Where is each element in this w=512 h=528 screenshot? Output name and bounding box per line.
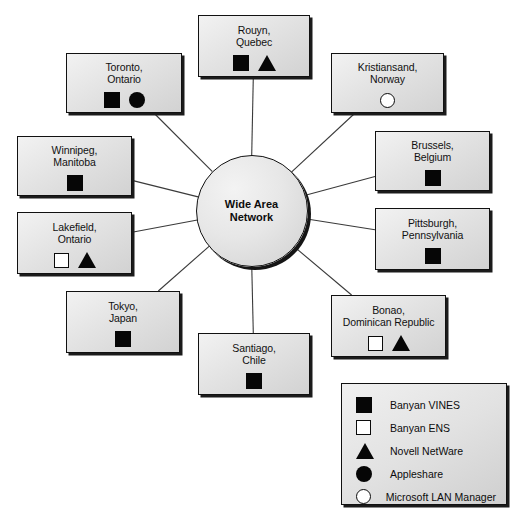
site-node-santiago[interactable]: Santiago, Chile bbox=[198, 333, 310, 395]
legend-label: Novell NetWare bbox=[390, 445, 463, 457]
legend-row: Banyan ENS bbox=[356, 416, 496, 439]
site-node-label: Tokyo, Japan bbox=[108, 300, 138, 325]
connection-line-tokyo bbox=[158, 246, 210, 291]
filled-square-icon bbox=[425, 248, 441, 264]
legend-swatch bbox=[356, 420, 380, 435]
legend-row: Appleshare bbox=[356, 462, 496, 485]
legend-swatch bbox=[356, 466, 380, 482]
connection-line-rouyn bbox=[252, 77, 254, 156]
filled-square-icon bbox=[115, 331, 131, 347]
connection-line-lakefield bbox=[132, 220, 197, 232]
legend-label: Banyan VINES bbox=[390, 399, 460, 411]
filled-square-icon bbox=[356, 397, 372, 413]
site-node-winnipeg[interactable]: Winnipeg, Manitoba bbox=[17, 136, 132, 196]
connection-line-winnipeg bbox=[132, 180, 198, 197]
site-node-label: Brussels, Belgium bbox=[411, 139, 453, 164]
site-node-label: Pittsburgh, Pennsylvania bbox=[402, 217, 463, 242]
legend-panel: Banyan VINESBanyan ENSNovell NetWareAppl… bbox=[341, 383, 507, 505]
filled-square-icon bbox=[104, 92, 120, 108]
site-node-kristiansand[interactable]: Kristiansand, Norway bbox=[331, 53, 444, 113]
site-node-label: Bonao, Dominican Republic bbox=[343, 304, 435, 329]
site-node-symbols bbox=[233, 54, 276, 73]
site-node-symbols bbox=[115, 330, 131, 349]
site-node-label: Rouyn, Quebec bbox=[236, 24, 272, 49]
legend-swatch bbox=[356, 443, 380, 459]
connection-line-brussels bbox=[303, 177, 375, 197]
open-circle-icon bbox=[380, 93, 395, 108]
connection-line-santiago bbox=[252, 264, 254, 333]
filled-square-icon bbox=[233, 55, 249, 71]
site-node-symbols bbox=[67, 174, 83, 193]
connection-line-pittsburgh bbox=[304, 219, 375, 230]
site-node-label: Toronto, Ontario bbox=[105, 61, 142, 86]
site-node-symbols bbox=[246, 372, 262, 391]
legend-swatch bbox=[356, 397, 380, 413]
site-node-symbols bbox=[368, 334, 410, 353]
filled-circle-icon bbox=[356, 466, 372, 482]
site-node-symbols bbox=[380, 91, 395, 110]
site-node-label: Lakefield, Ontario bbox=[53, 221, 97, 246]
filled-square-icon bbox=[67, 175, 83, 191]
wide-area-network-diagram: Rouyn, QuebecToronto, OntarioKristiansan… bbox=[0, 0, 512, 528]
legend-swatch bbox=[356, 489, 376, 504]
site-node-bonao[interactable]: Bonao, Dominican Republic bbox=[331, 295, 446, 357]
open-square-icon bbox=[368, 336, 383, 351]
connection-line-kristiansand bbox=[290, 113, 355, 173]
site-node-symbols bbox=[425, 247, 441, 266]
legend-label: Banyan ENS bbox=[390, 422, 450, 434]
site-node-label: Kristiansand, Norway bbox=[358, 61, 417, 86]
triangle-icon bbox=[392, 335, 410, 351]
triangle-icon bbox=[258, 55, 276, 71]
legend-label: Microsoft LAN Manager bbox=[386, 491, 496, 503]
filled-square-icon bbox=[425, 170, 441, 186]
legend-row: Banyan VINES bbox=[356, 393, 496, 416]
filled-circle-icon bbox=[129, 92, 145, 108]
site-node-toronto[interactable]: Toronto, Ontario bbox=[66, 53, 182, 113]
connection-line-toronto bbox=[154, 113, 213, 172]
filled-square-icon bbox=[246, 373, 262, 389]
site-node-symbols bbox=[54, 251, 96, 270]
open-square-icon bbox=[356, 420, 371, 435]
triangle-icon bbox=[78, 252, 96, 268]
open-circle-icon bbox=[356, 489, 371, 504]
hub-label: Wide Area Network bbox=[225, 198, 278, 225]
site-node-lakefield[interactable]: Lakefield, Ontario bbox=[17, 212, 132, 274]
site-node-label: Winnipeg, Manitoba bbox=[52, 144, 98, 169]
triangle-icon bbox=[356, 443, 374, 459]
legend-row: Novell NetWare bbox=[356, 439, 496, 462]
site-node-symbols bbox=[425, 169, 441, 188]
site-node-label: Santiago, Chile bbox=[232, 342, 275, 367]
site-node-brussels[interactable]: Brussels, Belgium bbox=[375, 131, 490, 191]
site-node-pittsburgh[interactable]: Pittsburgh, Pennsylvania bbox=[375, 208, 490, 270]
connection-line-bonao bbox=[292, 245, 352, 295]
site-node-rouyn[interactable]: Rouyn, Quebec bbox=[198, 15, 310, 77]
legend-row: Microsoft LAN Manager bbox=[356, 485, 496, 508]
open-square-icon bbox=[54, 253, 69, 268]
site-node-tokyo[interactable]: Tokyo, Japan bbox=[66, 291, 180, 353]
legend-label: Appleshare bbox=[390, 468, 443, 480]
hub-node-wide-area-network[interactable]: Wide Area Network bbox=[196, 155, 308, 267]
site-node-symbols bbox=[104, 91, 145, 110]
